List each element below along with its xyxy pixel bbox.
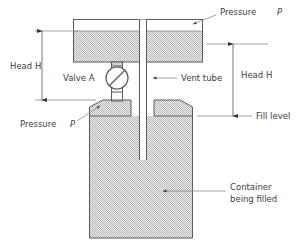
- supply-tank: [74, 20, 203, 63]
- pressure-top-symbol: P: [277, 7, 283, 17]
- container-vent-cutout: [139, 100, 146, 160]
- pressure-bottom-callout: Pressure P: [20, 106, 100, 129]
- head-right-label: Head H: [241, 70, 272, 80]
- container-label-line2: being filled: [230, 194, 277, 204]
- fill-level-callout: Fill level: [256, 111, 290, 121]
- supply-tank-air-space: [74, 20, 203, 32]
- valve-label: Valve A: [63, 73, 95, 83]
- fill-level-label: Fill level: [256, 111, 290, 121]
- head-left-label: Head H: [10, 61, 41, 71]
- pressure-top-callout: Pressure P: [193, 7, 283, 24]
- container-being-filled: [90, 92, 193, 238]
- valve-callout: Valve A: [63, 73, 95, 83]
- container-label-line1: Container: [230, 182, 272, 192]
- vent-tube-label: Vent tube: [181, 73, 222, 83]
- diagram-canvas: Head H Head H Pressure P Pressure P Valv…: [0, 0, 306, 252]
- filling-system-diagram: Head H Head H Pressure P Pressure P Valv…: [0, 0, 306, 252]
- pressure-bottom-label: Pressure: [20, 119, 56, 129]
- pressure-bottom-symbol: P: [70, 119, 76, 129]
- supply-tank-liquid: [74, 31, 203, 62]
- vent-tube-callout: Vent tube: [153, 73, 222, 83]
- pressure-top-label: Pressure: [220, 7, 256, 17]
